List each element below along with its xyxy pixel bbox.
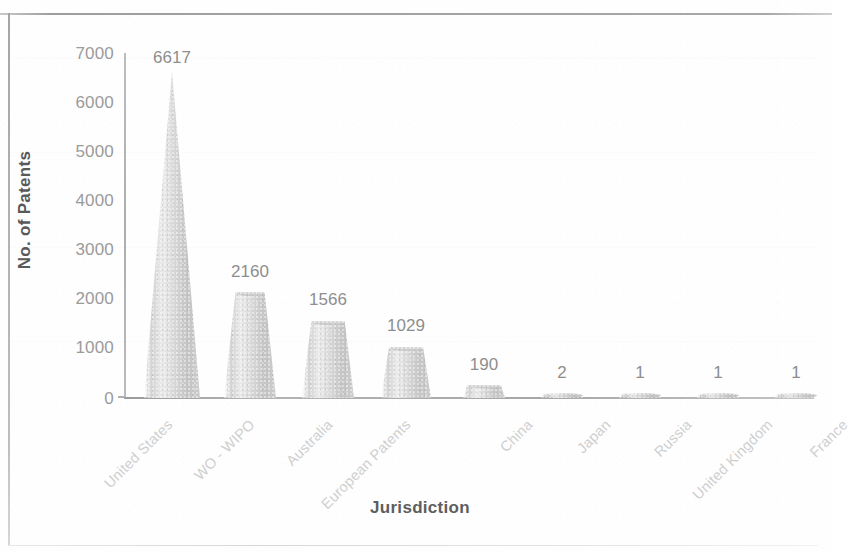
- figure-border-left: [8, 13, 10, 545]
- figure-border-bottom: [8, 545, 818, 546]
- scan-band: [10, 247, 816, 248]
- x-tick-japan: Japan: [525, 416, 614, 505]
- x-tick-united-kingdom: United Kingdom: [637, 416, 776, 553]
- scan-band: [10, 152, 816, 153]
- x-axis-title: Jurisdiction: [330, 498, 510, 518]
- scan-band: [10, 58, 816, 59]
- figure-border-top: [0, 13, 832, 15]
- scan-band: [10, 341, 816, 342]
- x-tick-russia: Russia: [602, 416, 695, 509]
- x-tick-china: China: [447, 416, 536, 505]
